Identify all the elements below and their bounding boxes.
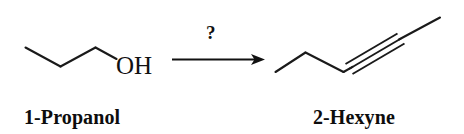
reaction-scheme-canvas: OH ? 1-Propanol 2-Hexyne xyxy=(0,0,464,134)
propanol-bond-c1-c2 xyxy=(26,48,61,67)
hydroxyl-label: OH xyxy=(116,53,152,78)
hexyne-triple-bond xyxy=(346,34,405,75)
triple-bond-line-center xyxy=(349,39,401,70)
triple-bond-line-lower xyxy=(346,34,398,65)
reaction-arrow xyxy=(172,54,265,65)
propanol-bond-c2-c3 xyxy=(61,48,96,67)
product-structure-2-hexyne xyxy=(276,18,441,75)
reagent-question-mark-label: ? xyxy=(206,23,216,42)
reactant-name-label: 1-Propanol xyxy=(24,107,120,127)
hexyne-bond-c6-c5 xyxy=(276,53,306,73)
hexyne-bond-c2-c1 xyxy=(399,18,440,40)
reactant-structure-1-propanol xyxy=(26,48,117,67)
triple-bond-line-upper xyxy=(353,44,405,75)
product-name-label: 2-Hexyne xyxy=(313,107,395,127)
hexyne-bond-c5-c4 xyxy=(306,53,344,73)
propanol-bond-c3-oxygen xyxy=(96,48,117,60)
